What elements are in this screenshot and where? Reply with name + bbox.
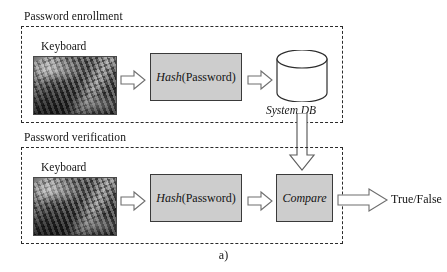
keyboard-photo-shadow [34,178,116,235]
keyboard-label-enrollment: Keyboard [41,40,86,52]
hash-box-enrollment: Hash (Password) [150,53,242,101]
section-title-enrollment: Password enrollment [24,10,123,22]
section-title-verification: Password verification [24,131,126,143]
arrow-hash-to-db-enroll [247,69,273,91]
hash-box-verification: Hash (Password) [150,174,242,222]
keyboard-label-verification: Keyboard [41,161,86,173]
arrow-hash-to-compare-verify [247,190,273,212]
keyboard-photo-verification [33,177,117,236]
figure-caption: a) [0,248,447,263]
output-label-true-false: True/False [391,192,442,207]
keyboard-photo-shadow [34,57,116,114]
hash-box-verification-italic: Hash [156,191,181,206]
hash-box-enrollment-italic: Hash [156,70,181,85]
arrow-keyboard-to-hash-enroll [120,69,146,91]
figure-canvas: Password enrollment Keyboard Hash (Passw… [0,0,447,272]
compare-box-label: Compare [282,191,326,206]
arrow-keyboard-to-hash-verify [120,190,146,212]
keyboard-photo-enrollment [33,56,117,115]
arrow-compare-to-output [337,187,389,213]
compare-box: Compare [276,174,333,222]
hash-box-verification-regular: (Password) [182,191,236,206]
database-cylinder-icon [275,50,329,102]
hash-box-enrollment-regular: (Password) [182,70,236,85]
